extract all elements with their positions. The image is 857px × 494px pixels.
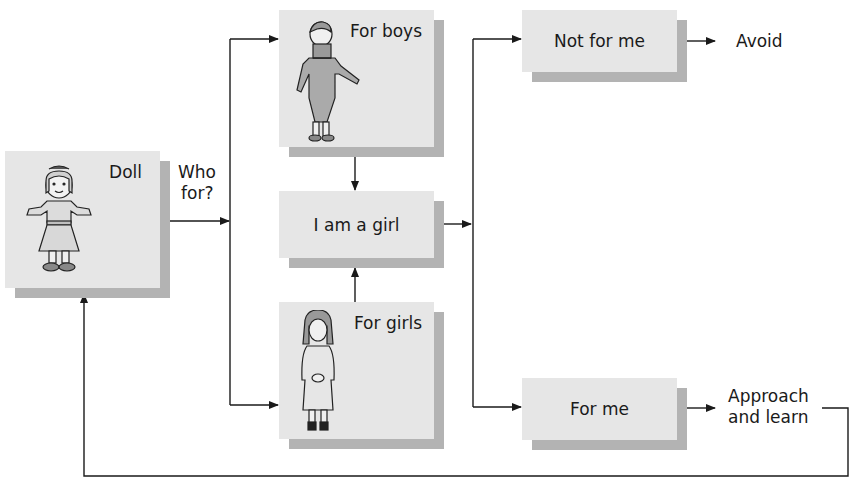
not-for-me-label: Not for me xyxy=(522,10,677,72)
feedback-loop-arrow xyxy=(84,294,848,476)
for-boys-label: For boys xyxy=(350,21,422,41)
who-for-line-2: for? xyxy=(178,183,216,204)
for-me-box: For me xyxy=(522,378,677,440)
not-for-me-box: Not for me xyxy=(522,10,677,72)
gender-schema-flow-diagram: Doll Who for? For boys I am a girl xyxy=(0,0,857,494)
doll-figure-icon xyxy=(19,163,99,278)
approach-line-1: Approach xyxy=(728,386,809,407)
who-for-label: Who for? xyxy=(178,162,216,204)
i-am-a-girl-label: I am a girl xyxy=(279,191,434,258)
i-am-a-girl-box: I am a girl xyxy=(279,191,434,258)
doll-label: Doll xyxy=(109,162,142,182)
for-girls-box: For girls xyxy=(279,302,434,439)
girl-figure-icon xyxy=(293,310,343,435)
for-me-label: For me xyxy=(522,378,677,440)
for-girls-label: For girls xyxy=(354,313,422,333)
who-for-line-1: Who xyxy=(178,162,216,183)
approach-and-learn-label: Approach and learn xyxy=(728,386,809,428)
avoid-label: Avoid xyxy=(736,31,783,52)
approach-line-2: and learn xyxy=(728,407,809,428)
for-boys-box: For boys xyxy=(279,10,434,147)
doll-box: Doll xyxy=(5,151,160,288)
